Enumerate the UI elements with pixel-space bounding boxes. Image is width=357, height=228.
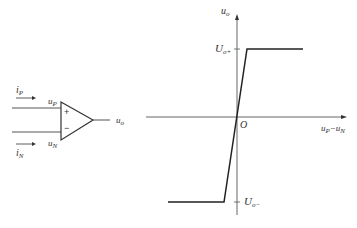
y-arrow-icon [235,14,239,20]
opamp-transfer-diagram: iP iN uP uN + − uo uo Uo+ Uo− O uP−uN [0,0,357,228]
label-x-axis: uP−uN [321,123,345,135]
label-y-axis: uo [221,5,230,18]
arrowhead-icon [32,142,36,146]
x-arrow-icon [341,115,347,119]
label-uo: uo [116,115,125,127]
transfer-axes [146,14,347,215]
label-in: iN [16,147,24,160]
opamp-symbol [12,96,110,146]
transfer-curve [168,49,303,202]
label-up: uP [48,96,58,108]
label-lower-sat: Uo− [244,195,260,209]
label-origin: O [240,119,247,130]
plus-sign: + [64,107,69,117]
arrowhead-icon [32,96,36,100]
label-upper-sat: Uo+ [215,42,231,56]
minus-sign: − [64,123,69,133]
label-un: uN [48,138,58,150]
label-ip: iP [16,84,24,97]
